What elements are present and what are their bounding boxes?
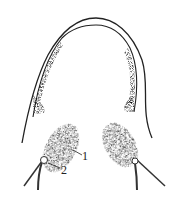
right-structure bbox=[95, 117, 145, 174]
left-structure-2 bbox=[41, 157, 48, 164]
label-1: 1 bbox=[82, 149, 88, 163]
anatomical-illustration: 1 2 bbox=[0, 0, 186, 209]
head-ventral-view-drawing: 1 2 bbox=[0, 0, 186, 209]
label-2: 2 bbox=[61, 163, 67, 177]
